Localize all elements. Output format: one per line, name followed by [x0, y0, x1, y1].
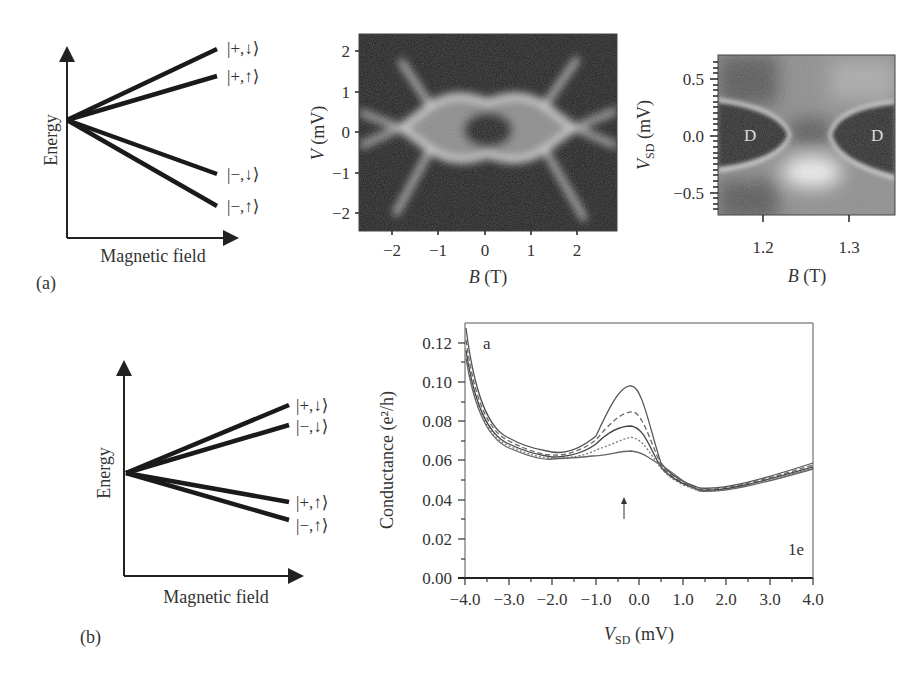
y-tick: −2	[332, 204, 350, 223]
state-label: |−,↑⟩	[296, 516, 328, 535]
x-tick: −4.0	[450, 590, 481, 609]
energy-diagram-a: |+,↓⟩ |+,↑⟩ |−,↓⟩ |−,↑⟩ Energy Magnetic …	[41, 39, 259, 266]
x-tick: 3.0	[759, 590, 780, 609]
x-tick: 1.2	[752, 238, 773, 257]
y-tick: 0.02	[422, 530, 452, 549]
y-tick: 0.0	[683, 127, 704, 146]
annotation-d: D	[744, 126, 756, 145]
y-tick: −0.5	[673, 184, 704, 203]
x-tick: −2	[383, 241, 401, 260]
x-tick: 1.3	[838, 238, 859, 257]
x-axis-label: B (T)	[469, 267, 507, 288]
y-tick: 0.04	[422, 491, 452, 510]
x-tick: −2.0	[537, 590, 568, 609]
x-tick: −1.0	[581, 590, 612, 609]
x-tick: 0.0	[628, 590, 649, 609]
panel-label-a: (a)	[36, 273, 56, 294]
y-axis-label: Conductance (e²/h)	[377, 391, 398, 529]
trace-label: 1e	[788, 540, 804, 559]
state-label: |−,↓⟩	[227, 165, 259, 184]
corner-label: a	[483, 334, 491, 353]
heatmap-2: D D 0.5 0.0 −0.5 1.2 1.3 B (T) VSD (mV)	[634, 55, 895, 287]
state-label: |−,↓⟩	[296, 417, 328, 436]
y-tick: 0.00	[422, 569, 452, 588]
y-tick: 0.12	[422, 334, 452, 353]
annotation-d: D	[871, 126, 883, 145]
panel-label-b: (b)	[80, 627, 101, 648]
y-tick: 0.10	[422, 373, 452, 392]
y-axis-label: V (mV)	[308, 106, 329, 161]
x-axis-label: B (T)	[788, 266, 826, 287]
state-label: |+,↓⟩	[296, 396, 328, 415]
state-label: |+,↑⟩	[227, 67, 259, 86]
x-tick: −3.0	[494, 590, 525, 609]
y-axis-label: Energy	[94, 447, 114, 499]
state-label: |+,↓⟩	[227, 39, 259, 58]
state-label: |−,↑⟩	[227, 197, 259, 216]
x-tick: 1	[527, 241, 536, 260]
x-axis-label: Magnetic field	[100, 246, 205, 266]
figure-canvas: |+,↓⟩ |+,↑⟩ |−,↓⟩ |−,↑⟩ Energy Magnetic …	[0, 0, 917, 675]
state-label: |+,↑⟩	[296, 493, 328, 512]
x-tick: 2	[573, 241, 582, 260]
heatmap-1: 2 1 0 −1 −2 −2 −1 0 1 2 B (T) V (mV)	[308, 34, 617, 288]
x-tick: 4.0	[802, 590, 823, 609]
y-tick: 1	[342, 83, 351, 102]
energy-diagram-b: |+,↓⟩ |−,↓⟩ |+,↑⟩ |−,↑⟩ Energy Magnetic …	[94, 364, 328, 607]
y-axis-label: VSD (mV)	[634, 100, 657, 170]
x-tick: 0	[481, 241, 490, 260]
x-tick: −1	[429, 241, 447, 260]
y-tick: 0.06	[422, 451, 452, 470]
x-axis-label: VSD (mV)	[604, 624, 674, 647]
y-tick: −1	[332, 164, 350, 183]
y-tick: 0.5	[683, 70, 704, 89]
x-axis-label: Magnetic field	[163, 587, 268, 607]
y-tick: 0.08	[422, 412, 452, 431]
y-tick: 0	[342, 123, 351, 142]
conductance-plot: 0.12 0.10 0.08 0.06 0.04 0.02 0.00 −4.0 …	[377, 323, 824, 647]
y-axis-label: Energy	[41, 114, 61, 166]
x-tick: 2.0	[715, 590, 736, 609]
y-tick: 2	[342, 42, 351, 61]
x-tick: 1.0	[672, 590, 693, 609]
